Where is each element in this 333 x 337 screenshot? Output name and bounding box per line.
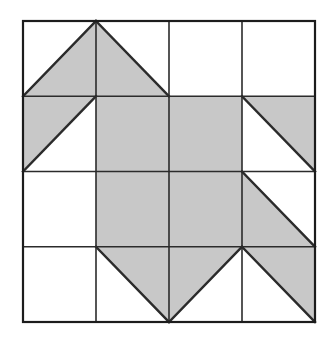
shaded-cell-r3-c2 bbox=[96, 172, 169, 247]
figure-container bbox=[0, 0, 333, 337]
grid-diagram bbox=[0, 0, 333, 337]
shaded-cell-r2-c3 bbox=[169, 96, 242, 171]
shaded-cell-r3-c3 bbox=[169, 172, 242, 247]
shaded-cell-r2-c2 bbox=[96, 96, 169, 171]
